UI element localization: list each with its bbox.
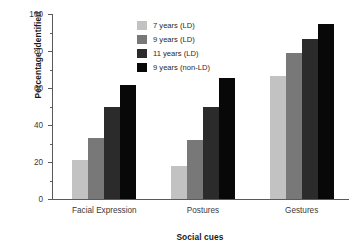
chart-legend: 7 years (LD)9 years (LD)11 years (LD)9 y… (137, 18, 210, 74)
x-axis-category-label: Gestures (285, 206, 318, 215)
legend-item-label: 11 years (LD) (153, 49, 198, 58)
legend-item-label: 9 years (non-LD) (153, 63, 210, 72)
y-axis-tick-label: 60 (34, 84, 43, 93)
legend-item-label: 9 years (LD) (153, 35, 195, 44)
bar (270, 76, 286, 199)
x-axis-line (48, 199, 349, 200)
y-axis-tick: 60 (48, 88, 52, 89)
bar (104, 107, 120, 200)
y-axis-tick: 0 (48, 199, 52, 200)
bar (72, 160, 88, 199)
y-axis-line (52, 14, 53, 199)
x-axis-category-label: Postures (187, 206, 219, 215)
y-axis-tick-label: 100 (29, 10, 43, 19)
y-axis-minor-tick (50, 33, 52, 34)
legend-item: 9 years (non-LD) (137, 60, 210, 74)
legend-swatch-icon (137, 21, 147, 30)
bar (120, 85, 136, 199)
y-axis-tick: 100 (48, 14, 52, 15)
y-axis-tick: 80 (48, 51, 52, 52)
bar (286, 53, 302, 199)
bar-chart-figure: Percentage identified 020406080100Facial… (0, 0, 363, 251)
bar (203, 107, 219, 200)
x-axis-category-label: Facial Expression (72, 206, 137, 215)
legend-item: 9 years (LD) (137, 32, 210, 46)
legend-item: 11 years (LD) (137, 46, 210, 60)
y-axis-tick-label: 80 (34, 47, 43, 56)
bar (187, 140, 203, 199)
y-axis-tick-label: 20 (34, 158, 43, 167)
y-axis-minor-tick (50, 181, 52, 182)
y-axis-tick: 40 (48, 125, 52, 126)
bar (219, 78, 235, 199)
x-axis-title: Social cues (52, 232, 348, 242)
legend-swatch-icon (137, 35, 147, 44)
y-axis-minor-tick (50, 107, 52, 108)
y-axis-tick-label: 0 (38, 195, 43, 204)
bar (88, 138, 104, 199)
y-axis-tick: 20 (48, 162, 52, 163)
y-axis-minor-tick (50, 144, 52, 145)
bar (171, 166, 187, 199)
legend-swatch-icon (137, 63, 147, 72)
legend-item-label: 7 years (LD) (153, 21, 195, 30)
bar (302, 39, 318, 199)
bar (318, 24, 334, 199)
y-axis-tick-label: 40 (34, 121, 43, 130)
y-axis-minor-tick (50, 70, 52, 71)
legend-item: 7 years (LD) (137, 18, 210, 32)
legend-swatch-icon (137, 49, 147, 58)
